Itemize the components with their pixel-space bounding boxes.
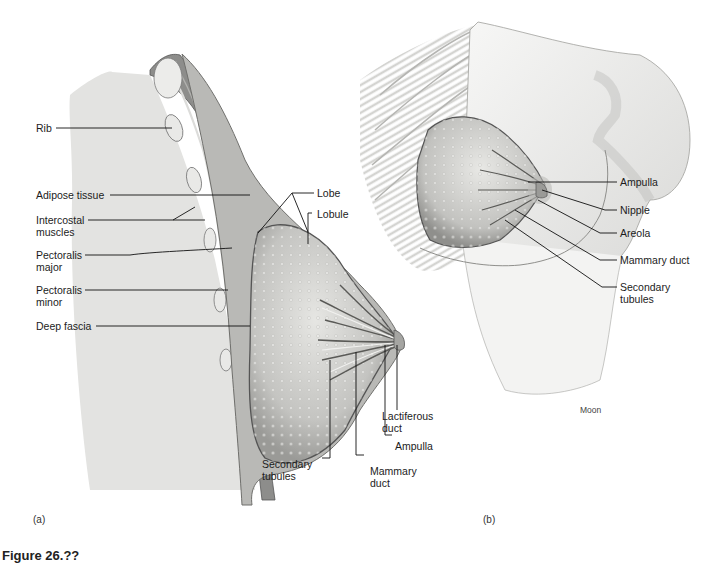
label-areola: Areola bbox=[620, 227, 650, 239]
label-lobe: Lobe bbox=[317, 187, 340, 199]
label-pectoralis-minor: Pectoralis minor bbox=[36, 284, 82, 308]
label-lobule: Lobule bbox=[317, 208, 349, 220]
panel-a-illustration bbox=[70, 54, 405, 505]
label-adipose-tissue: Adipose tissue bbox=[36, 189, 104, 201]
panel-tag-a: (a) bbox=[33, 514, 45, 525]
figure-caption: Figure 26.?? bbox=[2, 548, 79, 563]
label-ampulla-a: Ampulla bbox=[395, 440, 433, 452]
label-nipple: Nipple bbox=[620, 204, 650, 216]
label-lactiferous-duct: Lactiferous duct bbox=[382, 410, 433, 434]
label-intercostal-muscles: Intercostal muscles bbox=[36, 214, 84, 238]
label-mammary-duct-a: Mammary duct bbox=[370, 465, 417, 489]
label-secondary-tubules-a: Secondary tubules bbox=[262, 458, 312, 482]
label-pectoralis-major: Pectoralis major bbox=[36, 249, 82, 273]
label-ampulla-b: Ampulla bbox=[620, 176, 658, 188]
label-secondary-tubules-b: Secondary tubules bbox=[620, 281, 670, 305]
illustrator-credit: Moon bbox=[580, 405, 601, 415]
label-deep-fascia: Deep fascia bbox=[36, 320, 91, 332]
panel-tag-b: (b) bbox=[483, 514, 495, 525]
label-rib: Rib bbox=[36, 122, 52, 134]
label-mammary-duct-b: Mammary duct bbox=[620, 254, 689, 266]
